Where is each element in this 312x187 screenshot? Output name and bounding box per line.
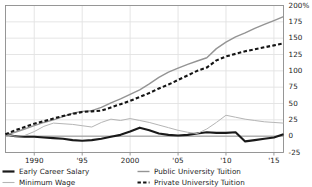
x-tick-label: '10: [206, 157, 246, 165]
y-tick-label: -25: [289, 149, 301, 157]
series-line-private-university-tuition: [6, 43, 284, 134]
legend-label-minimum-wage: Minimum Wage: [19, 178, 75, 187]
legend-item-public-university-tuition[interactable]: Public University Tuition: [137, 166, 287, 176]
x-tick-label: '05: [158, 157, 198, 165]
legend-item-early-career-salary[interactable]: Early Career Salary: [2, 166, 152, 176]
y-tick-label: 75: [289, 83, 298, 91]
chart-legend: Early Career Salary Minimum Wage Public …: [2, 166, 310, 187]
chart-container: 200%1751501251007550250-25 1990'952000'0…: [0, 0, 312, 187]
y-tick-label: 50: [289, 100, 298, 108]
y-tick-label: 200%: [289, 2, 310, 10]
solid-gray-line-swatch: [137, 167, 150, 176]
grid-lines: [6, 6, 284, 153]
legend-label-early-career-salary: Early Career Salary: [19, 167, 89, 176]
thin-solid-gray-line-swatch: [2, 178, 15, 187]
y-tick-label: 100: [289, 67, 303, 75]
plot-frame: [6, 6, 284, 153]
thick-solid-black-line-swatch: [2, 167, 15, 176]
y-tick-label: 0: [289, 132, 294, 140]
dashed-black-line-swatch: [137, 178, 150, 187]
x-tick-label: '95: [62, 157, 102, 165]
x-tick-label: '15: [254, 157, 294, 165]
legend-label-private-university-tuition: Private University Tuition: [154, 178, 245, 187]
x-tick-label: 2000: [110, 157, 150, 165]
series-line-minimum-wage: [6, 115, 284, 136]
legend-item-private-university-tuition[interactable]: Private University Tuition: [137, 177, 287, 187]
series-line-public-university-tuition: [6, 17, 284, 135]
series-line-early-career-salary: [6, 128, 284, 142]
legend-item-minimum-wage[interactable]: Minimum Wage: [2, 177, 152, 187]
y-tick-label: 125: [289, 51, 303, 59]
legend-column-right: Public University Tuition Private Univer…: [137, 166, 287, 187]
x-tick-label: 1990: [14, 157, 54, 165]
series-lines: [6, 17, 284, 142]
y-tick-label: 150: [289, 34, 303, 42]
y-tick-label: 25: [289, 116, 298, 124]
legend-label-public-university-tuition: Public University Tuition: [154, 167, 241, 176]
legend-column-left: Early Career Salary Minimum Wage: [2, 166, 152, 187]
y-tick-label: 175: [289, 18, 303, 26]
